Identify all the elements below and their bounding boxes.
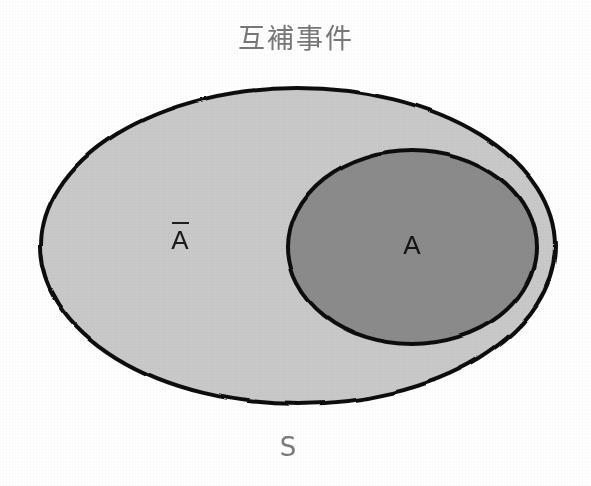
event-a-label: A [382, 230, 442, 260]
complement-region-label: A [150, 222, 210, 253]
venn-diagram-canvas [0, 0, 591, 486]
complementary-event-figure: 互補事件 [0, 0, 591, 486]
overline-bar-icon [172, 222, 189, 224]
sample-space-label: S [258, 432, 318, 462]
complement-label-text: A [150, 227, 210, 253]
page-title: 互補事件 [0, 22, 591, 56]
